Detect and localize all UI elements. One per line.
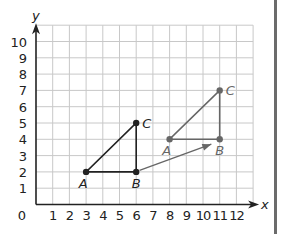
coordinate-plane-figure: xy 123456789101112123456789100 ABCABC [0, 0, 283, 234]
page-edge-bar [274, 0, 277, 234]
vertex-label-c: C [142, 116, 152, 131]
coordinate-plane: xy 123456789101112123456789100 ABCABC [0, 0, 283, 234]
triangle-outline [170, 90, 220, 139]
translation-arrow-line [140, 144, 212, 170]
x-tick-label: 10 [196, 208, 211, 223]
y-tick-label: 5 [19, 116, 27, 131]
tick-labels: 123456789101112123456789100 [10, 35, 243, 224]
x-tick-label: 4 [99, 208, 107, 223]
vertex-point [133, 120, 139, 126]
x-tick-label: 3 [82, 208, 90, 223]
grid-lines [36, 25, 253, 204]
vertex-label-b: B [215, 143, 224, 158]
triangle-outline [86, 123, 136, 172]
vertex-point [217, 136, 223, 142]
x-tick-label: 12 [229, 208, 244, 223]
x-tick-label: 1 [49, 208, 57, 223]
x-tick-label: 11 [212, 208, 227, 223]
x-tick-label: 5 [116, 208, 124, 223]
vertex-label-a: A [161, 143, 171, 158]
vertex-label-a: A [78, 176, 88, 191]
x-axis-label: x [260, 197, 269, 212]
vertex-point [217, 87, 223, 93]
y-tick-label: 7 [19, 83, 27, 98]
vertex-label-c: C [226, 83, 236, 98]
y-tick-label: 10 [10, 35, 27, 50]
origin-label: 0 [18, 208, 26, 223]
triangle-translated: ABC [161, 83, 236, 158]
vertex-point [83, 169, 89, 175]
y-tick-label: 3 [19, 149, 27, 164]
y-tick-label: 9 [19, 51, 27, 66]
vertex-label-b: B [132, 176, 141, 191]
triangle-original: ABC [78, 116, 153, 191]
triangles: ABCABC [78, 83, 236, 190]
x-tick-label: 7 [149, 208, 157, 223]
y-tick-label: 1 [19, 181, 27, 196]
y-tick-label: 2 [19, 165, 27, 180]
x-tick-label: 8 [166, 208, 174, 223]
y-axis-label: y [31, 8, 40, 23]
vertex-point [166, 136, 172, 142]
translation-arrow [140, 144, 212, 170]
vertex-point [133, 169, 139, 175]
y-tick-label: 4 [19, 132, 27, 147]
x-tick-label: 9 [183, 208, 191, 223]
x-tick-label: 2 [66, 208, 73, 223]
axes: xy [31, 8, 269, 211]
y-tick-label: 8 [19, 67, 27, 82]
y-tick-label: 6 [19, 100, 27, 115]
x-tick-label: 6 [133, 208, 141, 223]
